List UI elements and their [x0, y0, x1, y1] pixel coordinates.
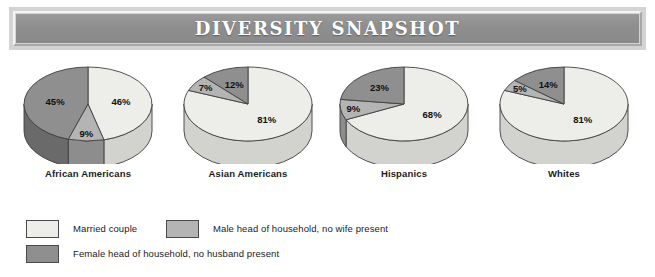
pie-slice-label: 23%	[370, 82, 390, 93]
pie-svg: 68%9%23%	[335, 60, 473, 164]
pie-stage: 81%7%12%	[179, 60, 317, 164]
legend-label: Married couple	[73, 223, 137, 234]
pie-slice-label: 7%	[199, 82, 213, 93]
pie-slice-label: 81%	[257, 114, 277, 125]
legend-swatch	[26, 245, 59, 263]
pie-slice-label: 81%	[573, 114, 593, 125]
pie-slice-label: 45%	[46, 96, 66, 107]
pie-stage: 68%9%23%	[335, 60, 473, 164]
legend-label: Male head of household, no wife present	[213, 223, 388, 234]
pie-slice-label: 68%	[423, 109, 443, 120]
pie-slice-label: 14%	[539, 79, 559, 90]
pie-slice-label: 9%	[80, 128, 94, 139]
pie-chart-whites: 81%5%14% Whites	[484, 58, 644, 198]
pie-svg: 81%7%12%	[179, 60, 317, 164]
legend-swatch	[166, 220, 199, 238]
banner-bevel: DIVERSITY SNAPSHOT	[13, 11, 642, 46]
pie-chart-african-americans: 46%9%45% African Americans	[8, 58, 168, 198]
title-banner: DIVERSITY SNAPSHOT	[9, 7, 646, 50]
pie-slice-side	[68, 139, 104, 164]
chart-legend: Married couple Male head of household, n…	[26, 216, 626, 266]
legend-swatch	[26, 220, 59, 238]
pie-slice-label: 9%	[347, 103, 361, 114]
banner-inner: DIVERSITY SNAPSHOT	[16, 14, 639, 43]
legend-row: Female head of household, no husband pre…	[26, 241, 626, 266]
page-title: DIVERSITY SNAPSHOT	[195, 18, 460, 39]
pie-chart-hispanics: 68%9%23% Hispanics	[324, 58, 484, 198]
legend-label: Female head of household, no husband pre…	[73, 248, 279, 259]
pie-stage: 81%5%14%	[495, 60, 633, 164]
legend-item-female-head: Female head of household, no husband pre…	[26, 245, 386, 263]
pie-caption: African Americans	[8, 168, 168, 179]
pie-stage: 46%9%45%	[19, 60, 157, 164]
pie-chart-row: 46%9%45% African Americans 81%7%12% Asia…	[0, 58, 655, 198]
legend-item-married-couple: Married couple	[26, 220, 166, 238]
pie-caption: Asian Americans	[168, 168, 328, 179]
pie-caption: Hispanics	[324, 168, 484, 179]
pie-slice-label: 46%	[111, 96, 131, 107]
legend-row: Married couple Male head of household, n…	[26, 216, 626, 241]
pie-chart-asian-americans: 81%7%12% Asian Americans	[168, 58, 328, 198]
pie-caption: Whites	[484, 168, 644, 179]
pie-slice-label: 12%	[225, 79, 245, 90]
pie-svg: 46%9%45%	[19, 60, 157, 164]
pie-svg: 81%5%14%	[495, 60, 633, 164]
pie-slice-label: 5%	[513, 83, 527, 94]
legend-item-male-head: Male head of household, no wife present	[166, 220, 526, 238]
